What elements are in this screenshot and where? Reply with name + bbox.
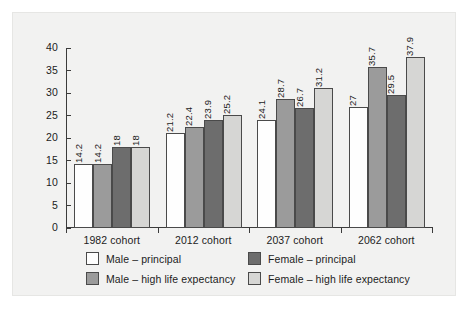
legend-label: Male – high life expectancy [106, 273, 235, 285]
legend-swatch [248, 252, 261, 265]
y-tick-label: 25 [18, 109, 58, 121]
category-label: 2037 cohort [249, 234, 341, 246]
legend-item[interactable]: Male – principal [86, 252, 181, 265]
bar: 22.4 [185, 127, 204, 228]
bar-value-label: 14.2 [92, 144, 103, 163]
y-tick-label: 40 [18, 41, 58, 53]
y-tick-label: 30 [18, 86, 58, 98]
legend-item[interactable]: Male – high life expectancy [86, 272, 235, 285]
legend-swatch [248, 272, 261, 285]
bar: 35.7 [368, 67, 387, 228]
bar: 24.1 [257, 120, 276, 228]
category-label: 2062 cohort [341, 234, 433, 246]
category-label: 2012 cohort [158, 234, 250, 246]
y-tick-label: 20 [18, 131, 58, 143]
legend-item[interactable]: Female – principal [248, 252, 356, 265]
chart-figure: 0510152025303540 14.214.2181821.222.423.… [0, 0, 473, 309]
bar-value-label: 25.2 [221, 94, 232, 113]
x-tick-mark [341, 228, 342, 233]
bar-value-label: 14.2 [73, 144, 84, 163]
bar: 37.9 [406, 57, 425, 228]
bar: 25.2 [223, 115, 242, 228]
bar-value-label: 22.4 [183, 107, 194, 126]
bar: 31.2 [314, 88, 333, 228]
bar-value-label: 18 [130, 135, 141, 146]
bar-value-label: 27 [347, 95, 358, 106]
bar-value-label: 21.2 [164, 112, 175, 131]
x-tick-mark [158, 228, 159, 233]
plot-area: 14.214.2181821.222.423.925.224.128.726.7… [66, 48, 432, 228]
legend-label: Female – principal [268, 253, 356, 265]
y-tick-label: 0 [18, 221, 58, 233]
category-label: 1982 cohort [66, 234, 158, 246]
bar-value-label: 24.1 [256, 99, 267, 118]
bar: 18 [112, 147, 131, 228]
bar: 14.2 [74, 164, 93, 228]
bar: 28.7 [276, 99, 295, 228]
x-tick-mark [66, 228, 67, 233]
y-tick-label: 35 [18, 64, 58, 76]
legend-swatch [86, 252, 99, 265]
legend-label: Male – principal [106, 253, 181, 265]
x-tick-mark [249, 228, 250, 233]
bar: 18 [131, 147, 150, 228]
bar-value-label: 26.7 [294, 88, 305, 107]
chart-legend: Male – principalFemale – principalMale –… [86, 252, 426, 290]
bar: 26.7 [295, 108, 314, 228]
bar-value-label: 35.7 [366, 47, 377, 66]
bar-value-label: 28.7 [275, 79, 286, 98]
bar-value-label: 23.9 [202, 100, 213, 119]
bar: 29.5 [387, 95, 406, 228]
y-tick-label: 10 [18, 176, 58, 188]
bar-value-label: 37.9 [404, 37, 415, 56]
legend-item[interactable]: Female – high life expectancy [248, 272, 410, 285]
x-tick-mark [432, 228, 433, 233]
legend-swatch [86, 272, 99, 285]
bar: 14.2 [93, 164, 112, 228]
bar-value-label: 31.2 [313, 67, 324, 86]
legend-label: Female – high life expectancy [268, 273, 410, 285]
bar: 23.9 [204, 120, 223, 228]
bar: 27 [349, 107, 368, 229]
y-tick-label: 5 [18, 199, 58, 211]
bar: 21.2 [166, 133, 185, 228]
bar-value-label: 29.5 [385, 75, 396, 94]
y-tick-label: 15 [18, 154, 58, 166]
bar-value-label: 18 [111, 135, 122, 146]
